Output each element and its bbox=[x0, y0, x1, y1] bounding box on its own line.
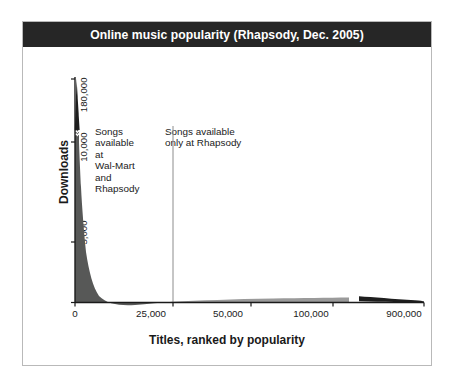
chart-figure: Online music popularity (Rhapsody, Dec. … bbox=[22, 21, 432, 366]
page-title: Online music popularity (Rhapsody, Dec. … bbox=[90, 28, 364, 42]
area-long-tail bbox=[359, 296, 424, 302]
chart-canvas bbox=[23, 47, 431, 365]
chart-title-bar: Online music popularity (Rhapsody, Dec. … bbox=[23, 22, 431, 47]
area-rhapsody-only bbox=[173, 298, 349, 303]
area-available-both bbox=[75, 130, 173, 305]
plot-area: Downloads 0 5,000 10,000 180,000 0 25,00… bbox=[23, 47, 431, 365]
